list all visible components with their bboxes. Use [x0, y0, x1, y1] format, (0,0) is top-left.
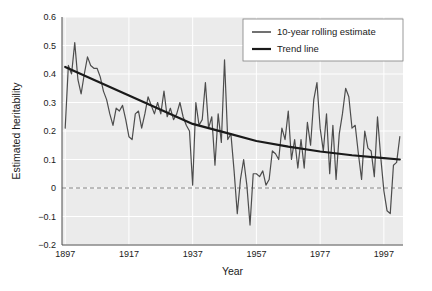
y-tick-label-6: 0.4: [43, 69, 56, 79]
x-tick-label-1: 1917: [119, 249, 139, 259]
legend: 10-year rolling estimateTrend line: [243, 19, 403, 61]
legend-label-0: 10-year rolling estimate: [277, 26, 376, 37]
y-tick-label-0: −0.2: [38, 240, 56, 250]
chart-svg: −0.2−0.100.10.20.30.40.50.61897191719371…: [0, 0, 432, 291]
y-tick-label-4: 0.2: [43, 126, 56, 136]
x-tick-label-0: 1897: [55, 249, 75, 259]
x-tick-label-3: 1957: [246, 249, 266, 259]
x-axis-title: Year: [222, 265, 244, 277]
y-tick-label-8: 0.6: [43, 12, 56, 22]
x-tick-label-5: 1997: [374, 249, 394, 259]
x-tick-label-4: 1977: [310, 249, 330, 259]
y-axis-title: Estimated heritability: [10, 82, 22, 180]
y-tick-label-7: 0.5: [43, 41, 56, 51]
legend-box: [243, 19, 403, 61]
y-tick-label-3: 0.1: [43, 155, 56, 165]
y-tick-label-1: −0.1: [38, 212, 56, 222]
x-tick-label-2: 1937: [183, 249, 203, 259]
y-tick-label-2: 0: [51, 183, 56, 193]
legend-label-1: Trend line: [277, 43, 319, 54]
y-tick-label-5: 0.3: [43, 98, 56, 108]
chart-figure: −0.2−0.100.10.20.30.40.50.61897191719371…: [0, 0, 432, 291]
